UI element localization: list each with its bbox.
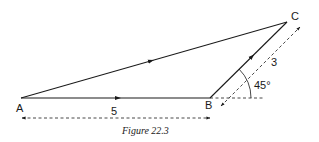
angle-arc: [239, 69, 251, 98]
bc-length-label: 3: [271, 56, 277, 68]
point-label-c: C: [291, 10, 299, 22]
ab-length-label: 5: [111, 105, 117, 117]
point-label-a: A: [16, 102, 24, 114]
vector-ac: [21, 22, 287, 98]
angle-label: 45°: [254, 79, 271, 91]
point-label-b: B: [205, 99, 212, 111]
figure-caption: Figure 22.3: [121, 125, 169, 136]
vector-triangle-diagram: A B C 5 3 45° Figure 22.3: [0, 0, 319, 142]
bc-dimension-line: [221, 27, 300, 106]
